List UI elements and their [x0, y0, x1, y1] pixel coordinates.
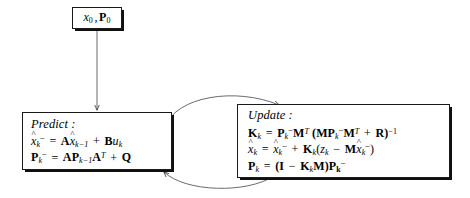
initial-state-node: x0,P0	[72, 7, 122, 29]
update-covariance-equation: Pk = (I − KkM)Pk−	[248, 159, 449, 172]
update-gain-equation: Kk = Pk−MT (MPk−MT + R)−1	[248, 126, 449, 139]
update-node: Update : Kk = Pk−MT (MPk−MT + R)−1 ^xk =…	[237, 104, 450, 178]
update-header: Update :	[248, 109, 449, 122]
update-state-equation: ^xk = ^xk− + Kk(zk − M^xk−)	[248, 142, 449, 155]
predict-covariance-equation: Pk− = APk−1AT + Q	[31, 150, 171, 163]
predict-header: Predict :	[31, 118, 171, 131]
predict-state-equation: ^xk− = A^xk−1 + Buk	[31, 134, 171, 147]
initial-state-label: x0,P0	[83, 11, 110, 25]
kalman-filter-diagram: x0,P0 Predict : ^xk− = A^xk−1 + Buk Pk− …	[0, 0, 470, 198]
predict-node: Predict : ^xk− = A^xk−1 + Buk Pk− = APk−…	[22, 112, 172, 170]
